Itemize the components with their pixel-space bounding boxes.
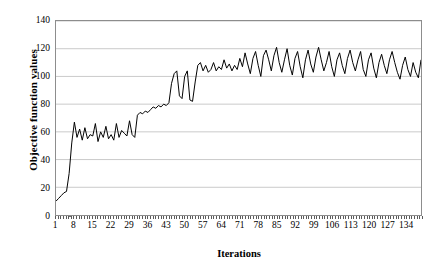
x-minor-tick [224, 216, 225, 219]
x-minor-tick [147, 216, 148, 219]
x-minor-tick [195, 216, 196, 219]
x-minor-tick [79, 216, 80, 219]
x-minor-tick [116, 216, 117, 219]
x-minor-tick [71, 216, 72, 219]
x-minor-tick [359, 216, 360, 219]
x-minor-tick [89, 216, 90, 219]
x-minor-tick [192, 216, 193, 219]
x-minor-tick [250, 216, 251, 219]
x-minor-tick [208, 216, 209, 219]
x-minor-tick [380, 216, 381, 219]
x-tick-label: 134 [391, 220, 421, 231]
x-minor-tick [301, 216, 302, 219]
x-minor-tick [422, 216, 423, 219]
x-minor-tick [100, 216, 101, 219]
x-minor-tick [63, 216, 64, 219]
x-minor-tick [398, 216, 399, 219]
x-minor-tick [303, 216, 304, 219]
x-minor-tick [179, 216, 180, 219]
x-minor-tick [272, 216, 273, 219]
x-minor-tick [372, 216, 373, 219]
x-minor-tick [221, 216, 222, 219]
x-minor-tick [364, 216, 365, 219]
series-line [56, 21, 421, 215]
x-minor-tick [348, 216, 349, 219]
x-minor-tick [351, 216, 352, 219]
x-minor-tick [126, 216, 127, 219]
x-minor-tick [110, 216, 111, 219]
x-minor-tick [338, 216, 339, 219]
x-minor-tick [343, 216, 344, 219]
x-minor-tick [369, 216, 370, 219]
x-minor-tick [419, 216, 420, 219]
x-minor-tick [274, 216, 275, 219]
x-minor-tick [55, 216, 56, 219]
x-minor-tick [92, 216, 93, 219]
x-minor-tick [118, 216, 119, 219]
x-minor-tick [132, 216, 133, 219]
x-minor-tick [161, 216, 162, 219]
x-minor-tick [290, 216, 291, 219]
x-minor-tick [411, 216, 412, 219]
x-minor-tick [73, 216, 74, 219]
x-minor-tick [393, 216, 394, 219]
x-minor-tick [134, 216, 135, 219]
x-minor-tick [105, 216, 106, 219]
x-minor-tick [330, 216, 331, 219]
x-minor-tick [150, 216, 151, 219]
x-minor-tick [269, 216, 270, 219]
x-minor-tick [414, 216, 415, 219]
x-minor-tick [279, 216, 280, 219]
x-minor-tick [322, 216, 323, 219]
x-minor-tick [124, 216, 125, 219]
x-minor-tick [377, 216, 378, 219]
x-minor-tick [187, 216, 188, 219]
x-minor-tick [298, 216, 299, 219]
x-minor-tick [139, 216, 140, 219]
x-minor-tick [311, 216, 312, 219]
x-minor-tick [293, 216, 294, 219]
x-minor-tick [60, 216, 61, 219]
x-minor-tick [108, 216, 109, 219]
y-tick-label: 80 [20, 99, 50, 109]
x-minor-tick [158, 216, 159, 219]
x-minor-tick [237, 216, 238, 219]
x-minor-tick [66, 216, 67, 219]
x-minor-tick [261, 216, 262, 219]
x-minor-tick [308, 216, 309, 219]
x-minor-tick [256, 216, 257, 219]
y-tick-label: 140 [20, 15, 50, 25]
x-minor-tick [121, 216, 122, 219]
x-minor-tick [142, 216, 143, 219]
y-tick-label: 40 [20, 155, 50, 165]
x-minor-tick [240, 216, 241, 219]
x-minor-tick [68, 216, 69, 219]
x-minor-tick [406, 216, 407, 219]
x-minor-tick [319, 216, 320, 219]
x-minor-tick [401, 216, 402, 219]
x-minor-tick [235, 216, 236, 219]
x-minor-tick [205, 216, 206, 219]
x-minor-tick [374, 216, 375, 219]
x-minor-tick [332, 216, 333, 219]
x-minor-tick [103, 216, 104, 219]
x-minor-tick [84, 216, 85, 219]
x-minor-tick [76, 216, 77, 219]
x-minor-tick [248, 216, 249, 219]
y-tick-label: 100 [20, 71, 50, 81]
x-minor-tick [385, 216, 386, 219]
x-minor-tick [340, 216, 341, 219]
plot-area [55, 20, 422, 216]
x-minor-tick [335, 216, 336, 219]
x-minor-tick [87, 216, 88, 219]
x-minor-tick [182, 216, 183, 219]
x-minor-tick [129, 216, 130, 219]
x-minor-tick [174, 216, 175, 219]
x-minor-tick [163, 216, 164, 219]
x-minor-tick [227, 216, 228, 219]
x-minor-tick [166, 216, 167, 219]
x-minor-tick [169, 216, 170, 219]
x-minor-tick [213, 216, 214, 219]
x-minor-tick [404, 216, 405, 219]
x-minor-tick [203, 216, 204, 219]
